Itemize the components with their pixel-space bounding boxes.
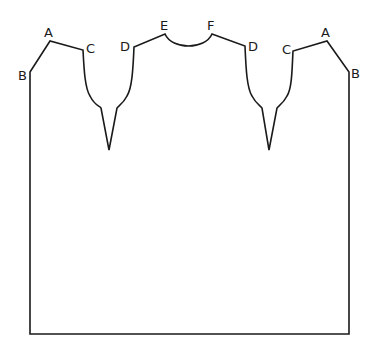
label-C-left: C [86, 41, 95, 56]
label-E: E [160, 18, 168, 33]
point-labels: B A C D E F D C A B [18, 18, 360, 83]
label-D-left: D [120, 39, 130, 54]
label-C-right: C [282, 42, 291, 57]
label-B-right: B [351, 66, 360, 81]
label-A-right: A [321, 25, 330, 40]
label-D-right: D [248, 39, 258, 54]
label-B-left: B [18, 68, 27, 83]
label-A-left: A [44, 25, 53, 40]
label-F: F [207, 18, 214, 33]
pattern-diagram: B A C D E F D C A B [0, 0, 374, 354]
pattern-outline [30, 34, 349, 334]
